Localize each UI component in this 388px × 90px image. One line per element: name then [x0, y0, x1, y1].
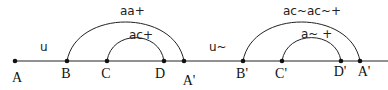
point-A — [13, 59, 18, 64]
point-label: C — [101, 66, 110, 81]
segment-label: u — [40, 40, 48, 54]
point-label: A' — [358, 64, 371, 79]
point-C1 — [280, 59, 285, 64]
point-label: D — [155, 66, 165, 81]
arc-label: aa+ — [120, 4, 145, 18]
point-label: A — [12, 70, 23, 85]
arc-diagram: aa+ac+ac~ac~+a~ +ABCDA'B'C'D'A'uu~ — [0, 0, 388, 90]
point-label: A' — [183, 73, 196, 88]
point-C — [105, 59, 110, 64]
point-label: B — [61, 66, 70, 81]
labels-group: aa+ac+ac~ac~+a~ +ABCDA'B'C'D'A'uu~ — [12, 4, 370, 88]
point-B1 — [241, 59, 246, 64]
arc-C1-D1 — [282, 38, 341, 61]
arc-label: a~ + — [301, 27, 332, 41]
point-A1 — [182, 59, 187, 64]
point-label: C' — [275, 66, 287, 81]
arc-label: ac~ac~+ — [283, 4, 341, 18]
arc-label: ac+ — [129, 28, 153, 42]
arc-B-A1 — [67, 22, 184, 61]
point-D — [162, 59, 167, 64]
point-label: D' — [334, 64, 347, 79]
point-B — [65, 59, 70, 64]
segment-label: u~ — [209, 40, 227, 54]
point-label: B' — [236, 66, 248, 81]
point-A2 — [358, 59, 363, 64]
point-D1 — [339, 59, 344, 64]
